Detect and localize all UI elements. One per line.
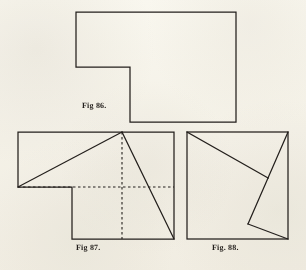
figure-87-group: [18, 132, 174, 239]
figure-88-cut-node-to-topright: [268, 132, 288, 178]
figure-88-cut-lower-node-to-bottomright: [248, 224, 288, 239]
figure-88-outline: [187, 132, 288, 239]
figure-88-caption: Fig. 88.: [212, 243, 239, 252]
figure-86-caption: Fig 86.: [82, 101, 107, 110]
figures-canvas: [0, 0, 306, 270]
figure-87-cut-left-to-apex: [18, 132, 122, 187]
figure-88-group: [187, 132, 288, 239]
figure-88-cut-topleft-to-node: [187, 132, 268, 178]
figure-87-outline: [18, 132, 174, 239]
figure-88-cut-node-to-lower-node: [248, 178, 268, 224]
figure-87-caption: Fig 87.: [76, 243, 101, 252]
figure-plate: Fig 86. Fig 87. Fig. 88.: [0, 0, 306, 270]
figure-87-cut-apex-to-bottom-right: [122, 132, 174, 239]
